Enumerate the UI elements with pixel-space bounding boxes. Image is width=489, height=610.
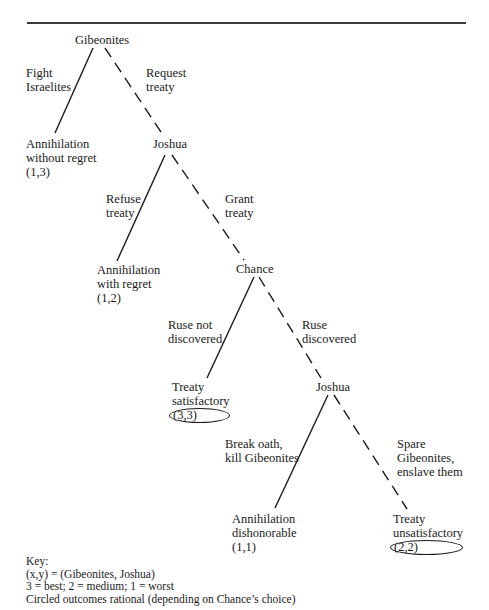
- edge-label-request: Requesttreaty: [146, 66, 186, 94]
- edge-label-grant: Granttreaty: [225, 192, 253, 220]
- edge-label-break-oath: Break oath,kill Gibeonites: [225, 437, 299, 465]
- payoff-circled: (3,3): [169, 408, 230, 423]
- payoff: (1,1): [232, 540, 297, 554]
- payoff: (1,2): [97, 291, 160, 305]
- node-joshua-1: Joshua: [153, 137, 187, 151]
- edge-label-refuse: Refusetreaty: [106, 192, 141, 220]
- node-chance: Chance: [236, 262, 273, 276]
- outcome-treaty-unsatisfactory: Treatyunsatisfactory (2,2): [393, 512, 463, 555]
- key-title: Key:: [26, 555, 296, 568]
- node-joshua-2: Joshua: [316, 380, 350, 394]
- payoff-circled: (2,2): [390, 540, 463, 555]
- key-line-2: 3 = best; 2 = medium; 1 = worst: [26, 580, 296, 593]
- key-line-3: Circled outcomes rational (depending on …: [26, 593, 296, 606]
- payoff: (1,3): [26, 165, 96, 179]
- node-gibeonites: Gibeonites: [75, 33, 129, 47]
- outcome-treaty-satisfactory: Treatysatisfactory (3,3): [172, 380, 230, 423]
- outcome-annihilation-dishonorable: Annihilationdishonorable (1,1): [232, 512, 297, 554]
- edge-label-ruse-discovered: Rusediscovered: [302, 318, 356, 346]
- key-line-1: (x,y) = (Gibeonites, Joshua): [26, 568, 296, 581]
- key-legend: Key: (x,y) = (Gibeonites, Joshua) 3 = be…: [26, 555, 296, 605]
- edge-label-fight: FightIsraelites: [26, 66, 71, 94]
- edge-label-ruse-not: Ruse notdiscovered: [168, 318, 222, 346]
- outcome-annihilation-without-regret: Annihilationwithout regret (1,3): [26, 137, 96, 179]
- outcome-annihilation-with-regret: Annihilationwith regret (1,2): [97, 263, 160, 305]
- edge-label-spare: SpareGibeonites,enslave them: [397, 437, 463, 479]
